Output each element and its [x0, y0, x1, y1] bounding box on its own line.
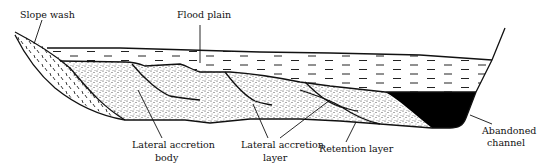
retention-layer-leader	[346, 122, 356, 142]
abandoned-channel-label-line1: Abandoned	[481, 125, 536, 136]
channel-cross-section-diagram: Slope wash Flood plain Lateral accretion…	[0, 0, 541, 168]
lateral-accretion-layer-label-line1: Lateral accretion	[241, 139, 324, 150]
abandoned-channel-label-line2: channel	[487, 137, 525, 148]
slope-wash-leader	[34, 20, 42, 44]
abandoned-channel-leader	[470, 115, 492, 124]
lateral-accretion-body-label-line2: body	[155, 152, 179, 163]
retention-layer-label: Retention layer	[319, 143, 394, 154]
lateral-accretion-body-label-line1: Lateral accretion	[132, 139, 215, 150]
slope-wash-label: Slope wash	[20, 9, 75, 20]
flood-plain-label: Flood plain	[177, 9, 231, 20]
lateral-accretion-layer-label-line2: layer	[263, 152, 288, 163]
